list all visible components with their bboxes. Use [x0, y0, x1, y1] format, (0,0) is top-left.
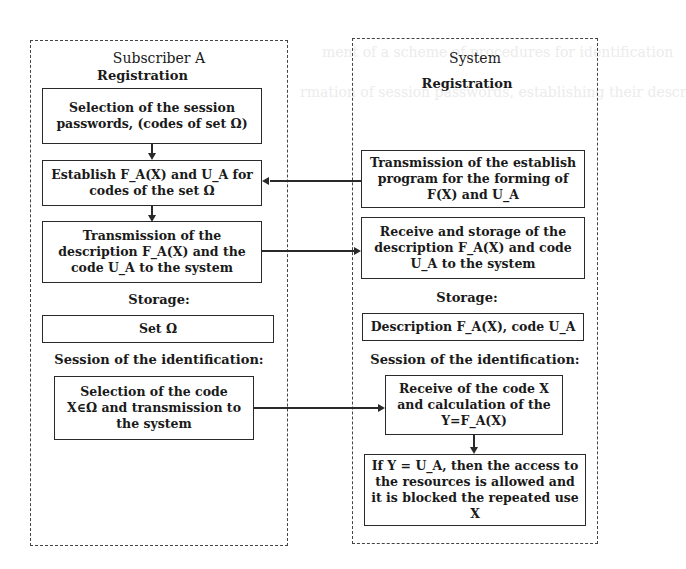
connector: [254, 407, 378, 409]
subscriber-selection-box: Selection of the session passwords, (cod…: [42, 88, 262, 144]
system-title: System: [352, 50, 598, 66]
subscriber-transmission-box: Transmission of the description F_A(X) a…: [42, 221, 262, 283]
box-line: description F_A(X) and the: [58, 244, 246, 260]
system-receive-box: Receive and storage of the description F…: [361, 217, 585, 279]
box-line: Transmission of the: [83, 228, 222, 244]
subscriber-establish-box: Establish F_A(X) and U_A for codes of th…: [42, 160, 262, 206]
subscriber-storage-box: Set Ω: [42, 315, 274, 343]
arrow-right-icon: [378, 404, 385, 412]
arrow-down-icon: [148, 153, 156, 160]
box-line: U_A to the system: [410, 256, 535, 272]
box-line: and calculation of the: [397, 397, 550, 413]
box-line: X: [470, 506, 480, 522]
box-line: Receive of the code X: [399, 381, 549, 397]
connector: [262, 250, 354, 252]
box-line: F(X) and U_A: [427, 187, 519, 203]
box-line: the system: [116, 416, 191, 432]
box-line: code U_A to the system: [71, 260, 233, 276]
subscriber-session-heading: Session of the identification:: [30, 352, 288, 367]
box-line: Receive and storage of the: [380, 224, 566, 240]
box-line: Selection of the code: [80, 384, 227, 400]
box-line: codes of the set Ω: [89, 183, 215, 199]
system-registration-heading: Registration: [352, 76, 582, 91]
arrow-down-icon: [470, 447, 478, 454]
subscriber-storage-heading: Storage:: [30, 292, 288, 307]
box-line: If Y = U_A, then the access to: [372, 458, 578, 474]
subscriber-code-box: Selection of the code X∈Ω and transmissi…: [54, 376, 254, 440]
system-access-box: If Y = U_A, then the access to the resou…: [364, 454, 586, 526]
subscriber-title: Subscriber A: [30, 50, 288, 66]
arrow-left-icon: [262, 177, 269, 185]
box-line: X∈Ω and transmission to: [67, 400, 241, 416]
box-line: program for the forming of: [378, 171, 569, 187]
system-session-heading: Session of the identification:: [352, 352, 598, 367]
system-calc-box: Receive of the code X and calculation of…: [385, 375, 563, 435]
connector: [270, 180, 361, 182]
box-line: Establish F_A(X) and U_A for: [51, 167, 253, 183]
box-line: it is blocked the repeated use: [371, 490, 579, 506]
system-storage-heading: Storage:: [352, 290, 582, 305]
subscriber-registration-heading: Registration: [30, 68, 255, 83]
box-line: Selection of the session: [69, 100, 235, 116]
box-line: Transmission of the establish: [370, 155, 576, 171]
arrow-right-icon: [354, 247, 361, 255]
box-line: Y=F_A(X): [441, 413, 507, 429]
box-line: the resources is allowed and: [375, 474, 575, 490]
system-storage-box: Description F_A(X), code U_A: [362, 313, 584, 341]
box-line: description F_A(X) and code: [374, 240, 571, 256]
box-line: passwords, (codes of set Ω): [56, 116, 247, 132]
system-program-box: Transmission of the establish program fo…: [361, 150, 585, 208]
